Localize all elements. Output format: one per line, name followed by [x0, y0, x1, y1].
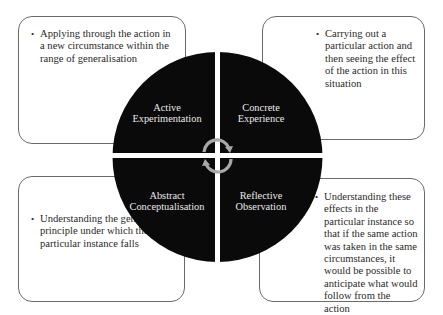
label-line: Abstract	[117, 190, 217, 201]
label-line: Concrete	[211, 102, 311, 113]
label-line: Observation	[211, 201, 311, 212]
label-line: Experience	[211, 113, 311, 124]
quadrant-abstract-conceptualisation	[112, 158, 215, 266]
label-line: Reflective	[211, 190, 311, 201]
label-active-experimentation: Active Experimentation	[117, 102, 217, 124]
label-line: Conceptualisation	[117, 201, 217, 212]
label-line: Active	[117, 102, 217, 113]
cycle-circle	[0, 0, 443, 315]
label-reflective-observation: Reflective Observation	[211, 190, 311, 212]
quadrant-reflective-observation	[220, 158, 328, 266]
cycle-arrows-icon	[204, 140, 231, 172]
label-abstract-conceptualisation: Abstract Conceptualisation	[117, 190, 217, 212]
label-line: Experimentation	[117, 113, 217, 124]
label-concrete-experience: Concrete Experience	[211, 102, 311, 124]
